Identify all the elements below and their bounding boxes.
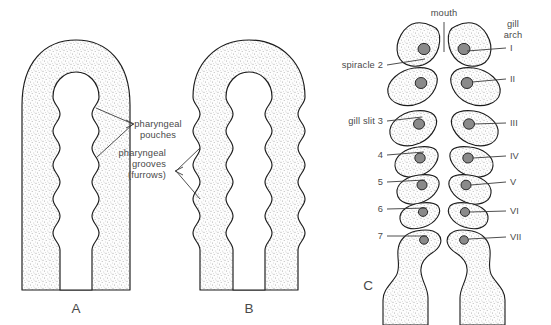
right-arch-1-nucleus bbox=[458, 43, 470, 54]
arch-label-vii: VII bbox=[510, 232, 521, 242]
left-arch-6-nucleus bbox=[418, 208, 427, 217]
slit-label-7: 7 bbox=[378, 231, 383, 241]
left-arch-5-nucleus bbox=[417, 180, 427, 190]
right-arch-7-nucleus bbox=[460, 236, 469, 244]
left-arch-1-nucleus bbox=[418, 43, 430, 54]
right-arch-5-nucleus bbox=[461, 180, 471, 190]
left-arch-3-nucleus bbox=[414, 119, 425, 129]
gill-arch-label-line1: gill bbox=[507, 19, 519, 29]
gill-arch-label-line2: arch bbox=[504, 30, 523, 40]
gill-slit-label: gill slit 3 bbox=[348, 116, 383, 126]
arch-label-iii: III bbox=[510, 118, 518, 128]
slit-label-5: 5 bbox=[378, 177, 383, 187]
right-arch-4-nucleus bbox=[463, 153, 473, 163]
pharyngeal-grooves-label-line3: (furrows) bbox=[128, 170, 166, 180]
panel-letter-b: B bbox=[244, 301, 253, 316]
slit-label-6: 6 bbox=[378, 204, 383, 214]
left-arch-7-nucleus bbox=[420, 236, 429, 244]
panel-b: B bbox=[193, 40, 305, 316]
right-arch-2-nucleus bbox=[461, 78, 473, 89]
left-arch-4-nucleus bbox=[415, 153, 425, 163]
arch-label-vi: VI bbox=[510, 206, 519, 216]
arch-label-iv: IV bbox=[510, 151, 520, 161]
panel-a: A bbox=[22, 40, 130, 316]
figure-root: A B pharyngeal pouches pharyngeal groove… bbox=[0, 0, 551, 325]
pharyngeal-pouches-label-line2: pouches bbox=[140, 130, 176, 140]
panel-letter-a: A bbox=[71, 301, 80, 316]
arch-label-ii: II bbox=[510, 74, 515, 84]
mouth-label: mouth bbox=[431, 8, 458, 18]
right-arch-6-nucleus bbox=[460, 208, 469, 217]
pharyngeal-arch-diagram: A B pharyngeal pouches pharyngeal groove… bbox=[0, 0, 551, 325]
arch-label-v: V bbox=[510, 177, 517, 187]
pharyngeal-grooves-label-line1: pharyngeal bbox=[118, 148, 166, 158]
left-arch-2-nucleus bbox=[415, 78, 427, 89]
panel-b-cavity bbox=[226, 72, 272, 290]
right-arch-3-nucleus bbox=[464, 119, 475, 129]
arch-label-i: I bbox=[510, 43, 513, 53]
panel-letter-c: C bbox=[363, 278, 373, 293]
slit-label-4: 4 bbox=[378, 150, 383, 160]
pharyngeal-grooves-label-line2: grooves bbox=[132, 159, 166, 169]
panel-a-cavity bbox=[53, 72, 99, 290]
spiracle-label: spiracle 2 bbox=[342, 60, 383, 70]
pharyngeal-pouches-label-line1: pharyngeal bbox=[134, 119, 182, 129]
